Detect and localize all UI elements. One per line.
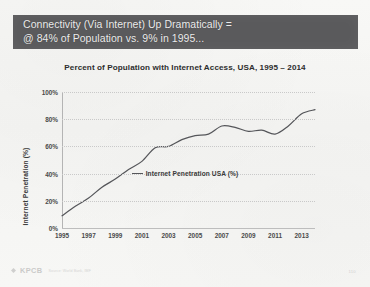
diamond-icon <box>11 268 16 273</box>
x-tick-1997: 1997 <box>82 232 96 239</box>
plot-area: 0%20%40%60%80%100%1995199719992001200320… <box>62 92 315 228</box>
page-number: 110 <box>348 269 356 274</box>
y-tick-100%: 100% <box>42 89 58 96</box>
x-tick-2003: 2003 <box>161 232 175 239</box>
kpcb-logo-text: KPCB <box>20 266 43 275</box>
y-tick-60%: 60% <box>45 143 58 150</box>
slide-header-banner: Connectivity (Via Internet) Up Dramatica… <box>13 15 358 49</box>
x-tick-2005: 2005 <box>188 232 202 239</box>
source-note: Source: World Bank, IMF <box>49 269 91 273</box>
y-tick-0%: 0% <box>49 225 58 232</box>
x-tick-2009: 2009 <box>241 232 255 239</box>
gridline-100% <box>62 92 315 93</box>
chart-title: Percent of Population with Internet Acce… <box>0 63 370 72</box>
gridline-80% <box>62 119 315 120</box>
kpcb-logo: KPCB Source: World Bank, IMF <box>11 266 91 275</box>
chart-legend: Internet Penetration USA (%) <box>0 170 370 177</box>
x-tick-2001: 2001 <box>135 232 149 239</box>
chart-container: Internet Penetration (%) 0%20%40%60%80%1… <box>0 78 370 253</box>
slide-headline: Connectivity (Via Internet) Up Dramatica… <box>23 18 352 45</box>
x-tick-2011: 2011 <box>268 232 282 239</box>
x-tick-1999: 1999 <box>108 232 122 239</box>
series-line-internet-penetration-usa <box>62 92 315 228</box>
x-tick-1995: 1995 <box>55 232 69 239</box>
legend-swatch-icon <box>132 173 143 174</box>
x-tick-2007: 2007 <box>215 232 229 239</box>
y-axis-label: Internet Penetration (%) <box>22 132 29 242</box>
gridline-0% <box>62 228 315 229</box>
y-tick-20%: 20% <box>45 197 58 204</box>
x-tick-2013: 2013 <box>295 232 309 239</box>
gridline-60% <box>62 146 315 147</box>
gridline-20% <box>62 201 315 202</box>
legend-label-internet-penetration-usa: Internet Penetration USA (%) <box>146 170 239 177</box>
y-tick-80%: 80% <box>45 116 58 123</box>
